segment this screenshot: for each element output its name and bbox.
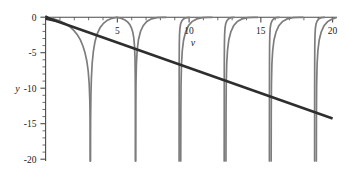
y-tick-label-neg15: -15 bbox=[24, 119, 37, 129]
plot-canvas: 5 10 15 20 0 -5 -10 -15 -20 v y bbox=[0, 0, 346, 169]
curve-branch-3 bbox=[179, 17, 212, 161]
x-tick-label-20: 20 bbox=[328, 26, 338, 36]
chart-figure: 5 10 15 20 0 -5 -10 -15 -20 v y bbox=[0, 0, 346, 169]
y-tick-label-neg5: -5 bbox=[29, 48, 37, 58]
curve-branch-6 bbox=[315, 17, 336, 161]
curve-branch-2 bbox=[117, 17, 166, 161]
x-tick-label-15: 15 bbox=[256, 26, 266, 36]
y-axis-title: y bbox=[14, 83, 20, 94]
y-tick-label-neg20: -20 bbox=[24, 155, 37, 165]
y-tick-label-0: 0 bbox=[32, 13, 37, 23]
y-tick-label-neg10: -10 bbox=[24, 84, 37, 94]
curve-branch-5 bbox=[269, 17, 303, 161]
x-tick-label-5: 5 bbox=[115, 26, 120, 36]
x-tick-label-10: 10 bbox=[184, 26, 194, 36]
x-axis-title: v bbox=[191, 37, 196, 48]
